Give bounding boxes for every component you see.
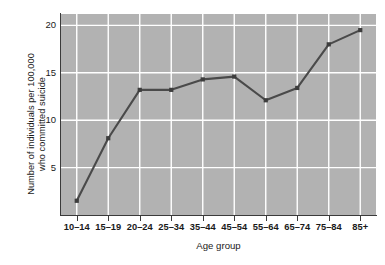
data-point-marker [327,42,331,46]
x-tick-mark [266,216,267,221]
x-axis-title: Age group [61,240,376,251]
series-markers [75,28,363,203]
x-axis-ticks: 10–1415–1920–2425–3435–4445–5455–6465–74… [61,216,376,236]
plot-canvas [61,14,376,215]
series-line-suicide-rate [77,30,361,201]
y-axis-tick-labels: 5101520 [30,14,56,215]
data-point-marker [295,86,299,90]
y-tick-label: 5 [30,163,56,173]
data-point-marker [75,199,79,203]
x-tick-mark [171,216,172,221]
x-tick-mark [108,216,109,221]
data-point-marker [264,98,268,102]
x-tick-mark [297,216,298,221]
y-tick-label: 10 [30,115,56,125]
x-tick-mark [329,216,330,221]
x-tick-label: 85+ [338,222,382,233]
vertical-gridlines [77,14,361,215]
data-point-marker [201,77,205,81]
x-tick-mark [360,216,361,221]
line-chart-figure: Number of individuals per 100,000 who co… [0,0,385,265]
x-tick-mark [203,216,204,221]
x-tick-mark [234,216,235,221]
x-tick-mark [77,216,78,221]
plot-area [61,14,376,215]
y-tick-label: 15 [30,68,56,78]
x-tick-mark [140,216,141,221]
data-point-marker [106,136,110,140]
data-point-marker [169,88,173,92]
y-tick-label: 20 [30,20,56,30]
data-point-marker [358,28,362,32]
data-point-marker [138,88,142,92]
data-point-marker [232,74,236,78]
